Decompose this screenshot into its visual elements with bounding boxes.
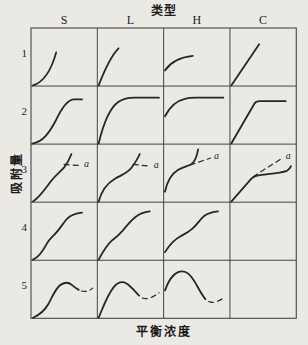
- dashed-curve-L3: [133, 164, 150, 166]
- cell-L4: [99, 211, 150, 259]
- cell-C3: [231, 158, 291, 202]
- cell-S2: [32, 99, 82, 143]
- curve-L2: [99, 98, 159, 144]
- annotation-H3: a: [214, 150, 219, 161]
- curve-H4: [165, 211, 218, 252]
- cell-L3: [99, 154, 151, 202]
- curve-S2: [32, 99, 82, 143]
- cell-S1: [33, 52, 56, 85]
- curve-H2: [165, 98, 223, 117]
- annotation-L3: a: [154, 159, 159, 170]
- cell-C1: [231, 44, 259, 85]
- curve-C1: [231, 44, 259, 85]
- curve-S1: [33, 52, 56, 85]
- curve-S3: [33, 154, 71, 202]
- cell-H3: [165, 149, 211, 191]
- curve-H1: [165, 56, 193, 71]
- cell-L2: [99, 98, 159, 144]
- curve-L3: [99, 154, 140, 202]
- cell-S3: [33, 154, 81, 202]
- curve-C2: [231, 101, 285, 143]
- cell-L5: [99, 282, 159, 317]
- annotation-C3: a: [286, 150, 291, 161]
- cell-H4: [165, 211, 218, 252]
- dashed-curve-S5: [81, 288, 92, 291]
- dashed-curve-H5: [209, 299, 222, 302]
- cell-L1: [99, 48, 119, 85]
- cell-H5: [165, 271, 222, 302]
- curve-L4: [99, 211, 150, 259]
- dashed-curve-L5: [142, 293, 159, 299]
- cell-H1: [165, 56, 193, 71]
- grid-canvas: aaaa: [0, 0, 308, 345]
- curve-L1: [99, 48, 119, 85]
- giles-isotherm-figure: 类型 SLHC 12345 吸附量 平衡浓度 aaaa: [0, 0, 308, 345]
- cell-H2: [165, 98, 223, 117]
- curve-H3: [165, 149, 198, 191]
- curve-L5: [99, 282, 139, 317]
- cell-S4: [33, 213, 82, 260]
- cell-S5: [33, 283, 93, 318]
- cell-C2: [231, 101, 285, 143]
- annotation-S3: a: [84, 158, 89, 169]
- curve-H5: [165, 271, 205, 299]
- curve-S5: [33, 283, 79, 318]
- curve-S4: [33, 213, 82, 260]
